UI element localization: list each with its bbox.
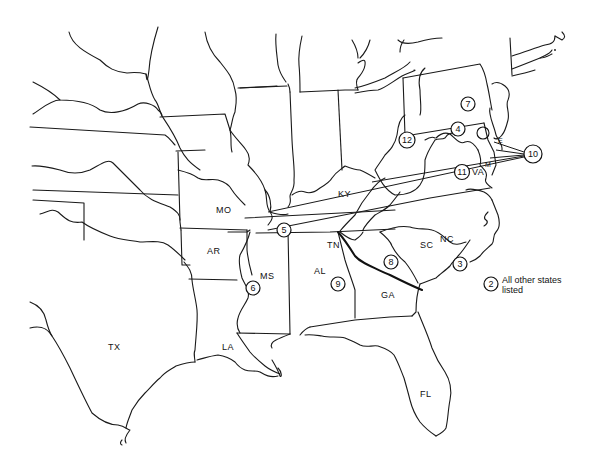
- svg-text:9: 9: [335, 279, 340, 289]
- svg-text:11: 11: [457, 167, 466, 177]
- label-de: E: [498, 137, 503, 144]
- label-mo: MO: [216, 205, 232, 215]
- label-ky: KY: [338, 189, 351, 199]
- marker-3: 3: [453, 257, 467, 271]
- label-al: AL: [314, 266, 326, 276]
- marker-12: 12: [399, 132, 415, 148]
- state-labels: MO KY TN NC AR MS AL SC GA TX LA FL VA E…: [108, 137, 503, 399]
- marker-6: 6: [246, 281, 260, 295]
- svg-text:6: 6: [250, 283, 255, 293]
- marker-1-partial: [477, 127, 489, 139]
- label-ar: AR: [207, 246, 221, 256]
- svg-text:10: 10: [528, 149, 538, 159]
- svg-text:4: 4: [455, 124, 460, 134]
- svg-text:7: 7: [465, 99, 470, 109]
- svg-text:2: 2: [488, 279, 493, 289]
- legend: 2 All other states listed: [484, 275, 562, 295]
- svg-text:8: 8: [388, 257, 393, 267]
- label-fl: FL: [420, 389, 432, 399]
- svg-text:3: 3: [457, 259, 462, 269]
- label-ms: MS: [260, 271, 275, 281]
- label-md: M: [485, 161, 491, 168]
- marker-11: 11: [455, 165, 470, 180]
- southeast-us-map: MO KY TN NC AR MS AL SC GA TX LA FL VA E…: [0, 0, 595, 467]
- label-nc: NC: [440, 234, 454, 244]
- highlighted-route-line: [338, 232, 422, 290]
- label-tx: TX: [108, 342, 121, 352]
- marker-9: 9: [331, 277, 345, 291]
- legend-text-line1: All other states: [502, 275, 562, 285]
- label-tn: TN: [327, 240, 340, 250]
- label-la: LA: [222, 342, 234, 352]
- marker-5: 5: [277, 223, 291, 237]
- label-sc: SC: [420, 240, 434, 250]
- legend-text-line2: listed: [502, 285, 523, 295]
- label-ga: GA: [381, 290, 395, 300]
- svg-text:5: 5: [281, 225, 286, 235]
- marker-10: 10: [524, 145, 542, 163]
- marker-7: 7: [461, 97, 475, 111]
- state-boundaries: [30, 27, 565, 445]
- marker-8: 8: [384, 255, 398, 269]
- label-va: VA: [472, 167, 484, 177]
- marker-10-leader-lines: [268, 142, 524, 212]
- svg-text:12: 12: [402, 135, 412, 145]
- marker-4: 4: [451, 122, 465, 136]
- legend-marker-2: 2: [484, 277, 498, 291]
